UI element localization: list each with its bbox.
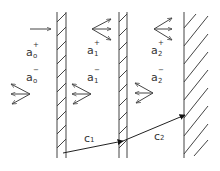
label-sup: + bbox=[33, 42, 39, 49]
label-sup: + bbox=[94, 40, 100, 47]
label-a0-plus: a + o bbox=[26, 47, 33, 58]
label-base: a bbox=[26, 71, 33, 84]
label-sup: + bbox=[158, 40, 164, 47]
label-sub: 2 bbox=[158, 51, 162, 58]
label-sup: − bbox=[158, 67, 164, 74]
label-sub: 1 bbox=[94, 51, 98, 58]
reflected-wave-fan-layer-0 bbox=[11, 84, 30, 104]
label-c2: c 2 bbox=[154, 131, 160, 142]
label-sub: 2 bbox=[160, 135, 164, 142]
label-base: a bbox=[87, 71, 94, 84]
wall-2 bbox=[119, 12, 127, 158]
label-sub: 1 bbox=[90, 137, 94, 144]
transmitted-wave-fan-layer-2 bbox=[154, 18, 172, 40]
label-base: a bbox=[151, 71, 158, 84]
label-sub: o bbox=[33, 53, 37, 60]
label-sub: 1 bbox=[94, 78, 98, 85]
label-sup: − bbox=[94, 67, 100, 74]
label-a2-plus: a + 2 bbox=[151, 45, 158, 56]
label-a0-minus: a − o bbox=[26, 72, 33, 83]
label-sub: o bbox=[33, 78, 37, 85]
label-a1-plus: a + 1 bbox=[87, 45, 94, 56]
wall-1 bbox=[57, 12, 66, 158]
label-c1: c 1 bbox=[84, 133, 90, 144]
label-sup: − bbox=[33, 67, 39, 74]
transmitted-wave-fan-layer-1 bbox=[92, 19, 111, 40]
reflected-wave-fan-layer-2 bbox=[135, 83, 153, 103]
layered-media-diagram bbox=[0, 0, 220, 171]
label-base: a bbox=[151, 44, 158, 57]
label-sub: 2 bbox=[158, 78, 162, 85]
label-a2-minus: a − 2 bbox=[151, 72, 158, 83]
reflected-wave-fan-layer-1 bbox=[72, 84, 91, 104]
label-base: a bbox=[26, 46, 33, 59]
label-a1-minus: a − 1 bbox=[87, 72, 94, 83]
wall-3-half-space bbox=[184, 12, 208, 158]
label-base: a bbox=[87, 44, 94, 57]
